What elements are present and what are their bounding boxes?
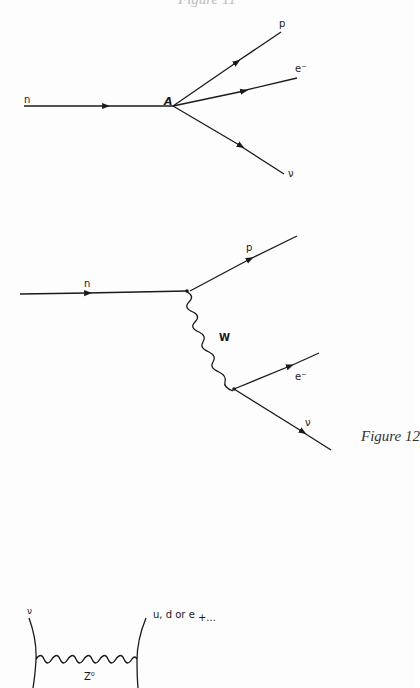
d3-fermion-suffix: +...	[198, 612, 216, 623]
d3-fermion-text: u, d or e	[153, 609, 195, 620]
d3-z-boson-label: Z⁰	[84, 672, 95, 682]
d3-neutrino-label: ν	[27, 607, 32, 616]
diagram-1-lines	[24, 32, 297, 174]
d2-proton-label: p	[246, 243, 252, 253]
d2-neutron-label: n	[84, 279, 90, 289]
d2-neutrino-label: ν	[305, 418, 311, 428]
diagram-2-lines	[20, 236, 331, 450]
d2-electron-label: e⁻	[295, 372, 306, 382]
d3-fermion-label: u, d or e +...	[153, 610, 216, 620]
figure-caption: Figure 12	[361, 428, 420, 445]
d1-vertex-label: A	[164, 96, 173, 107]
d1-electron-label: e⁻	[295, 64, 306, 74]
d2-w-boson-label: W	[219, 333, 230, 343]
d1-neutron-label: n	[24, 95, 30, 105]
d1-proton-label: p	[279, 19, 285, 29]
d1-neutrino-label: ν	[288, 169, 294, 179]
